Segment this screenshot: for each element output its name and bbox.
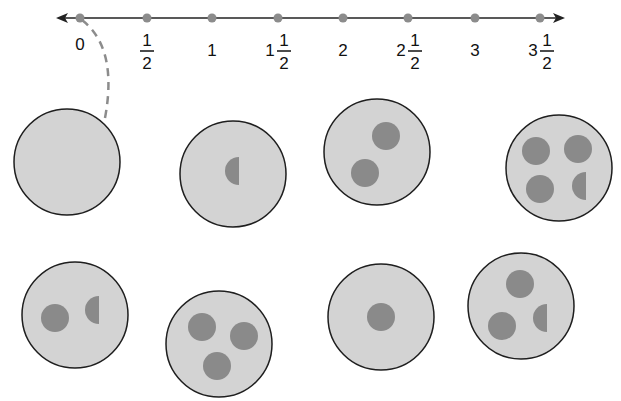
svg-text:2: 2	[410, 54, 419, 73]
tick-point-half	[143, 14, 152, 23]
whole-dot-icon	[488, 312, 516, 340]
whole-dot-icon	[188, 313, 216, 341]
circle-2[interactable]	[180, 121, 286, 227]
circle-1[interactable]	[14, 109, 120, 215]
svg-text:2: 2	[396, 41, 405, 60]
circle-5[interactable]	[22, 262, 128, 368]
svg-text:1: 1	[410, 31, 419, 50]
label-1: 1	[207, 41, 216, 60]
label-3: 3	[470, 41, 479, 60]
tick-point-3	[471, 14, 480, 23]
label-1-half: 1 1 2	[265, 31, 291, 73]
label-0: 0	[75, 35, 84, 54]
circle-6[interactable]	[166, 291, 272, 397]
whole-dot-icon	[203, 352, 231, 380]
whole-dot-icon	[372, 122, 400, 150]
circle-7[interactable]	[328, 264, 434, 370]
number-line: 0 1 2 1 1 1 2 2 2 1 2 3 3	[56, 13, 565, 73]
whole-dot-icon	[367, 303, 395, 331]
tick-point-3-half	[536, 14, 545, 23]
svg-text:1: 1	[542, 31, 551, 50]
svg-text:1: 1	[265, 41, 274, 60]
whole-dot-icon	[564, 135, 592, 163]
label-2-half: 2 1 2	[396, 31, 422, 73]
tick-point-1-half	[274, 14, 283, 23]
whole-dot-icon	[230, 322, 258, 350]
tick-point-2-half	[404, 14, 413, 23]
whole-dot-icon	[526, 175, 554, 203]
circle-4[interactable]	[506, 115, 612, 221]
label-half: 1 2	[140, 31, 154, 73]
svg-text:1: 1	[142, 31, 151, 50]
circle-8[interactable]	[468, 253, 574, 359]
whole-dot-icon	[41, 304, 69, 332]
svg-text:2: 2	[542, 54, 551, 73]
svg-text:3: 3	[528, 41, 537, 60]
svg-text:2: 2	[279, 54, 288, 73]
circle-3[interactable]	[324, 99, 430, 205]
tick-labels: 0 1 2 1 1 1 2 2 2 1 2 3 3	[75, 31, 554, 73]
tick-point-2	[339, 14, 348, 23]
whole-dot-icon	[351, 159, 379, 187]
label-2: 2	[338, 41, 347, 60]
dashed-connector[interactable]	[82, 20, 108, 118]
fraction-diagram: 0 1 2 1 1 1 2 2 2 1 2 3 3	[0, 0, 621, 401]
label-3-half: 3 1 2	[528, 31, 554, 73]
tick-point-1	[208, 14, 217, 23]
whole-dot-icon	[506, 270, 534, 298]
svg-text:1: 1	[279, 31, 288, 50]
svg-text:2: 2	[142, 54, 151, 73]
whole-dot-icon	[522, 137, 550, 165]
